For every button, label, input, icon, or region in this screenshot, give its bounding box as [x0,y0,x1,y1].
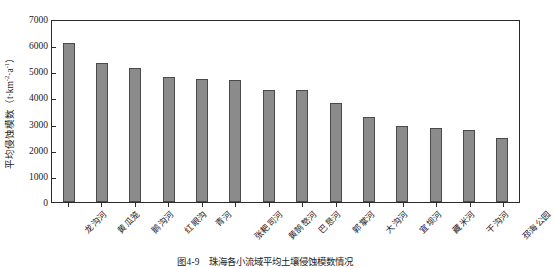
x-axis-tick-label: 青河 [212,207,234,229]
x-axis-tick-mark [168,203,169,207]
y-axis-tick-label: 4000 [29,93,48,103]
bar[interactable] [296,90,308,202]
y-axis-tick-mark [52,99,56,100]
x-axis-tick-mark [403,203,404,207]
y-axis-tick-label: 0 [43,198,48,208]
figure-caption: 图4-9珠海各小流域平均土壤侵蚀模数情况 [0,254,530,268]
y-axis-tick-mark [52,152,56,153]
y-axis-title-sup-km: -2 [3,76,10,81]
x-axis-tick-label: 干沟河 [483,207,511,235]
plot-area [51,20,520,203]
bar-slot [352,21,385,202]
x-axis-tick-mark [202,203,203,207]
y-axis-tick-labels: 01000200030004000500060007000 [14,14,48,208]
bar[interactable] [163,77,175,202]
x-axis-tick-label: 郭掌河 [349,207,377,235]
x-axis-tick-label: 黄鹄嶅河 [285,207,320,242]
bar[interactable] [463,130,475,202]
bar[interactable] [229,80,241,202]
y-axis-tick-mark [52,126,56,127]
bar[interactable] [63,43,75,202]
y-axis-tick-mark [52,178,56,179]
y-axis-tick-label: 3000 [29,120,48,130]
bar-slot [386,21,419,202]
bar[interactable] [496,138,508,202]
x-axis-tick-label: 红眼沟 [181,207,209,235]
x-axis-tick-label: 藏米河 [449,207,477,235]
x-axis-tick-mark [302,203,303,207]
figure-caption-text: 珠海各小流域平均土壤侵蚀模数情况 [209,257,353,267]
bar-slot [119,21,152,202]
x-axis-tick-label: 宜坝河 [416,207,444,235]
y-axis-tick-label: 5000 [29,67,48,77]
bar-slot [319,21,352,202]
bar-slot [85,21,118,202]
x-axis-tick-mark [436,203,437,207]
x-axis-tick-mark [101,203,102,207]
x-axis-tick-mark [369,203,370,207]
x-axis-tick-mark [135,203,136,207]
y-axis-tick-mark [52,47,56,48]
bar[interactable] [96,63,108,202]
x-axis-tick-mark [235,203,236,207]
bar-slot [452,21,485,202]
x-axis-tick-label: 鹅沟河 [148,207,176,235]
x-axis-tick-mark [336,203,337,207]
y-axis-tick-mark [52,73,56,74]
x-axis-tick-label: 黄瓜笼 [114,207,142,235]
bar-slot [486,21,519,202]
bar[interactable] [196,79,208,202]
bar-slot [252,21,285,202]
bar-series [52,21,519,202]
y-axis-tick-label: 6000 [29,41,48,51]
y-axis-tick-label: 7000 [29,15,48,25]
bar-slot [152,21,185,202]
bar[interactable] [330,103,342,202]
bar-slot [419,21,452,202]
bar[interactable] [363,117,375,202]
bar[interactable] [263,90,275,202]
y-axis-title-sup-a: -1 [3,63,10,68]
x-axis-tick-mark [503,203,504,207]
bar-slot [185,21,218,202]
x-axis-tick-label: 龙沟河 [81,207,109,235]
x-axis-tick-label: 邳海公园 [519,207,554,242]
x-axis-tick-label: 张耙司河 [251,207,286,242]
bar[interactable] [430,128,442,202]
x-axis-tick-mark [470,203,471,207]
bar-slot [286,21,319,202]
bar-slot [52,21,85,202]
bar-slot [219,21,252,202]
x-axis-tick-label: 大沟河 [382,207,410,235]
bar[interactable] [396,126,408,202]
y-axis-tick-label: 2000 [29,146,48,156]
figure-caption-number: 图4-9 [177,257,200,267]
x-axis-tick-mark [68,203,69,207]
x-axis-tick-labels: 龙沟河黄瓜笼鹅沟河红眼沟青河张耙司河黄鹄嶅河巴恳河郭掌河大沟河宜坝河藏米河干沟河… [51,207,520,251]
bar[interactable] [129,68,141,202]
x-axis-tick-label: 巴恳河 [315,207,343,235]
x-axis-tick-mark [269,203,270,207]
y-axis-tick-label: 1000 [29,172,48,182]
